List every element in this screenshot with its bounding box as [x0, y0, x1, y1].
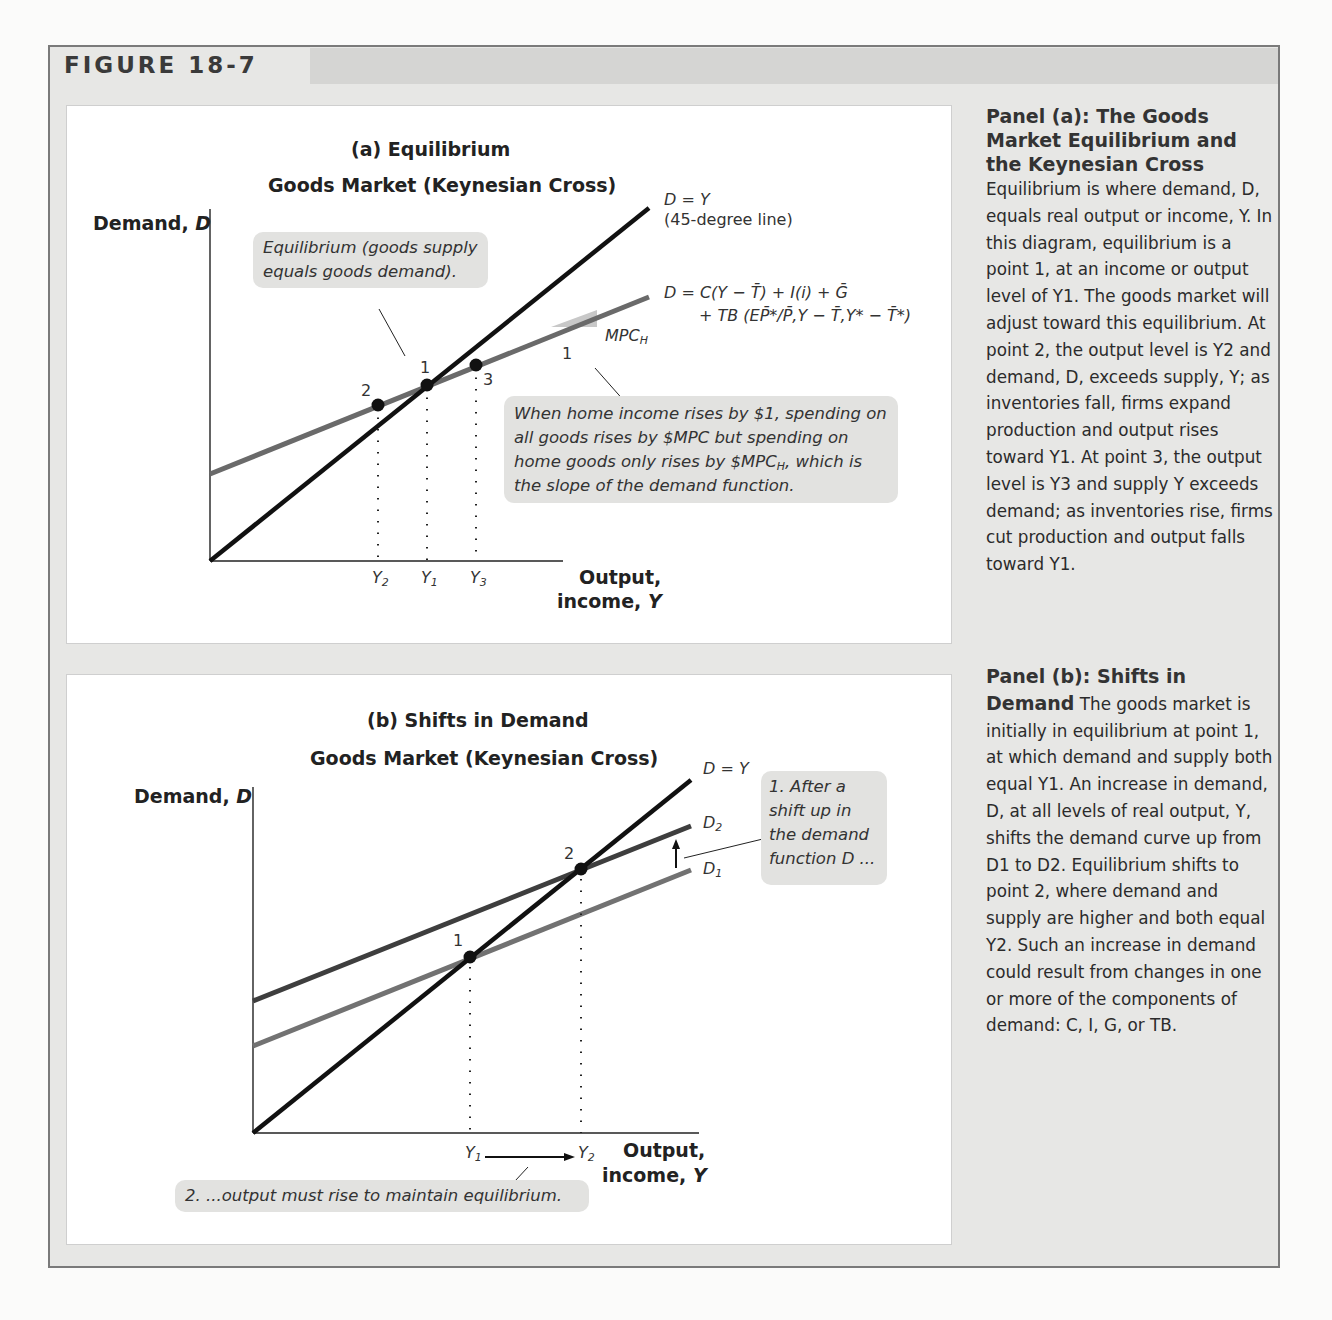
- panel-a-title: (a) Equilibrium: [351, 138, 510, 160]
- note-equilibrium: Equilibrium (goods supply equals goods d…: [253, 232, 488, 288]
- point-2-label: 2: [564, 844, 574, 863]
- tick-y3: Y3: [470, 568, 487, 587]
- panel-a: (a) Equilibrium Goods Market (Keynesian …: [66, 105, 952, 644]
- label-45-degree: (45-degree line): [664, 210, 793, 229]
- panel-b: (b) Shifts in Demand Goods Market (Keyne…: [66, 674, 952, 1245]
- output-arrow-head: [564, 1153, 575, 1161]
- point-2-label: 2: [361, 381, 371, 400]
- point-1-label: 1: [453, 931, 463, 950]
- note-output: 2. ...output must rise to maintain equil…: [175, 1180, 589, 1212]
- leader-output: [515, 1167, 528, 1181]
- sidebar-panel-b: Panel (b): Shifts in Demand The goods ma…: [986, 664, 1276, 1039]
- figure-header-bar: [310, 48, 1278, 84]
- sidebar-a-heading: Panel (a): The Goods Market Equilibrium …: [986, 104, 1276, 176]
- leader-shift: [684, 838, 767, 858]
- tick-y2: Y2: [372, 568, 389, 587]
- sidebar-b-body: The goods market is initially in equilib…: [986, 694, 1272, 1036]
- label-d-equals-y: D = Y: [703, 759, 749, 778]
- d2-line: [253, 826, 691, 1001]
- label-d-equals-y: D = Y: [664, 190, 710, 209]
- sidebar-panel-a: Panel (a): The Goods Market Equilibrium …: [986, 104, 1276, 578]
- panel-a-x-axis-label-2: income, Y: [557, 590, 662, 612]
- point-2: [372, 399, 385, 412]
- tick-y1: Y1: [465, 1143, 482, 1162]
- demand-equation-line2: + TB (EP̄*/P̄,Y − T̄,Y* − T̄*): [699, 306, 911, 325]
- panel-b-title: (b) Shifts in Demand: [367, 709, 589, 731]
- tick-y1: Y1: [421, 568, 438, 587]
- label-d2: D2: [703, 813, 722, 832]
- panel-b-x-axis-label-1: Output,: [623, 1139, 705, 1161]
- panel-b-subtitle: Goods Market (Keynesian Cross): [310, 747, 658, 769]
- sidebar-a-body: Equilibrium is where demand, D, equals r…: [986, 176, 1276, 578]
- label-d1: D1: [703, 859, 722, 878]
- leader-equilibrium: [379, 309, 405, 356]
- slope-label: MPCH: [605, 326, 648, 345]
- figure-label: FIGURE 18-7: [64, 52, 258, 78]
- panel-a-y-axis-label: Demand, D: [93, 212, 211, 234]
- point-1-label: 1: [420, 358, 430, 377]
- slope-run-label: 1: [562, 344, 572, 363]
- point-3-label: 3: [483, 370, 493, 389]
- point-2: [575, 863, 588, 876]
- note-shift: 1. After a shift up in the demand functi…: [761, 771, 887, 885]
- point-3: [470, 359, 483, 372]
- point-1: [421, 379, 434, 392]
- tick-y2: Y2: [578, 1143, 595, 1162]
- point-1: [464, 951, 477, 964]
- panel-b-y-axis-label: Demand, D: [134, 785, 252, 807]
- panel-b-x-axis-label-2: income, Y: [602, 1164, 707, 1186]
- demand-equation-line1: D = C(Y − T̄) + I(i) + Ḡ: [664, 283, 848, 302]
- panel-a-subtitle: Goods Market (Keynesian Cross): [268, 174, 616, 196]
- note-slope: When home income rises by $1, spending o…: [504, 396, 898, 503]
- shift-arrow-head: [672, 839, 680, 849]
- panel-a-x-axis-label-1: Output,: [579, 566, 661, 588]
